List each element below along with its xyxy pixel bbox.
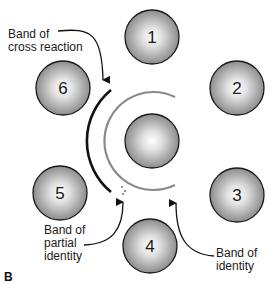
arrow-identity	[176, 203, 214, 256]
band-of-cross-reaction	[87, 90, 111, 192]
well-4-label: 4	[145, 237, 154, 256]
well-4: 4	[123, 219, 177, 273]
arrow-partial-identity	[84, 202, 123, 245]
well-1: 1	[125, 10, 179, 64]
center-well	[125, 114, 179, 168]
partial-identity-dots	[121, 186, 126, 195]
well-2: 2	[210, 61, 264, 115]
label-partial-identity: Band of partial identity	[44, 224, 85, 263]
well-6: 6	[36, 61, 90, 115]
label-cross-reaction: Band of cross reaction	[8, 28, 83, 54]
panel-label: B	[4, 270, 13, 284]
well-2-label: 2	[232, 79, 241, 98]
label-identity: Band of identity	[216, 247, 257, 273]
well-3: 3	[210, 168, 264, 222]
well-1-label: 1	[147, 28, 156, 47]
well-6-label: 6	[58, 79, 67, 98]
well-5: 5	[33, 166, 87, 220]
well-5-label: 5	[55, 184, 64, 203]
well-3-label: 3	[232, 186, 241, 205]
